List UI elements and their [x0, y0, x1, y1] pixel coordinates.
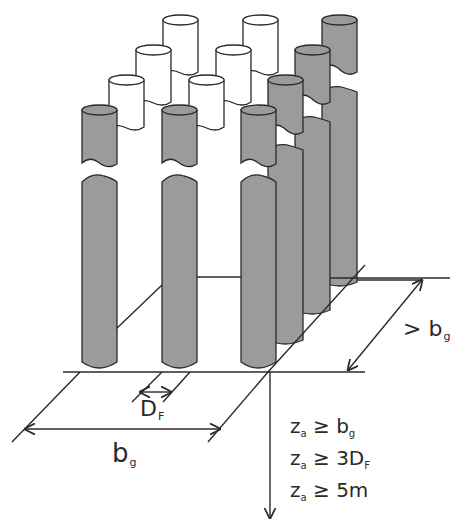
bg-extension-left: [12, 372, 80, 442]
cond-value: 5m: [336, 478, 368, 502]
pile-top: [82, 110, 117, 167]
pile-cap: [109, 75, 144, 85]
cond-value-sub: F: [364, 460, 370, 471]
cond-op: ≥: [313, 478, 330, 502]
cond-op: ≥: [313, 414, 330, 438]
pile-cap: [295, 45, 330, 55]
df-main: D: [140, 396, 157, 421]
pile-cap: [136, 45, 171, 55]
cond-var: z: [290, 478, 301, 502]
bg-main: b: [112, 438, 129, 468]
depth-conditions: za ≥ bg za ≥ 3DF za ≥ 5m: [290, 414, 370, 503]
pile-cap: [241, 105, 276, 115]
pile-diameter-label: DF: [140, 398, 164, 422]
depth-sub: g: [443, 330, 450, 343]
plane-left-diag: [115, 285, 162, 330]
cond-value: b: [336, 414, 349, 438]
cond-sub: a: [301, 460, 307, 471]
pile-cap: [189, 75, 224, 85]
condition-2: za ≥ 3DF: [290, 446, 370, 471]
depth-prefix: > b: [403, 316, 442, 341]
pile-cap: [322, 15, 357, 25]
condition-1: za ≥ bg: [290, 414, 370, 439]
group-width-label: bg: [112, 440, 137, 468]
pile-cap: [216, 45, 251, 55]
pile-row-1: [82, 105, 276, 368]
depth-extent-label: > bg: [403, 318, 450, 342]
cond-sub: a: [301, 428, 307, 439]
pile-cap: [163, 15, 198, 25]
pile-shaft: [162, 175, 197, 368]
pile-group-diagram: .g { fill: #9b9b9b; stroke: #2a2a2a; str…: [0, 0, 452, 524]
pile-shaft: [241, 175, 276, 368]
cond-value-sub: g: [349, 428, 355, 439]
pile-cap: [268, 75, 303, 85]
df-extension-right: [163, 372, 190, 402]
pile-top: [162, 110, 197, 167]
ground-plane: [12, 265, 450, 442]
pile-cap: [162, 105, 197, 115]
cond-var: z: [290, 446, 301, 470]
cond-value: 3D: [336, 446, 364, 470]
pile-cap: [82, 105, 117, 115]
cond-sub: a: [301, 492, 307, 503]
bg-extension-right: [208, 372, 268, 442]
bg-sub: g: [130, 456, 137, 469]
cond-var: z: [290, 414, 301, 438]
cond-op: ≥: [313, 446, 330, 470]
pile-cap: [243, 15, 278, 25]
pile-shaft: [82, 175, 117, 368]
pile-top: [241, 110, 276, 167]
df-sub: F: [158, 410, 164, 423]
condition-3: za ≥ 5m: [290, 478, 370, 503]
